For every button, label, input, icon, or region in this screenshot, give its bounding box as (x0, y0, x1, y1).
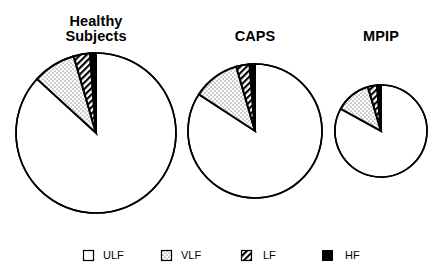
pie-mpip (335, 85, 427, 177)
legend-swatch-ulf (84, 251, 94, 261)
legend-swatch-vlf (162, 251, 172, 261)
legend-label-hf: HF (345, 249, 360, 261)
pie-healthy-subjects (16, 53, 176, 213)
legend-label-ulf: ULF (103, 249, 124, 261)
pie-charts (0, 0, 441, 276)
legend-label-vlf: VLF (181, 249, 201, 261)
pie-caps (188, 64, 322, 198)
legend-swatch-hf (322, 250, 333, 261)
legend-swatch-lf (242, 251, 252, 261)
legend-label-lf: LF (263, 249, 276, 261)
